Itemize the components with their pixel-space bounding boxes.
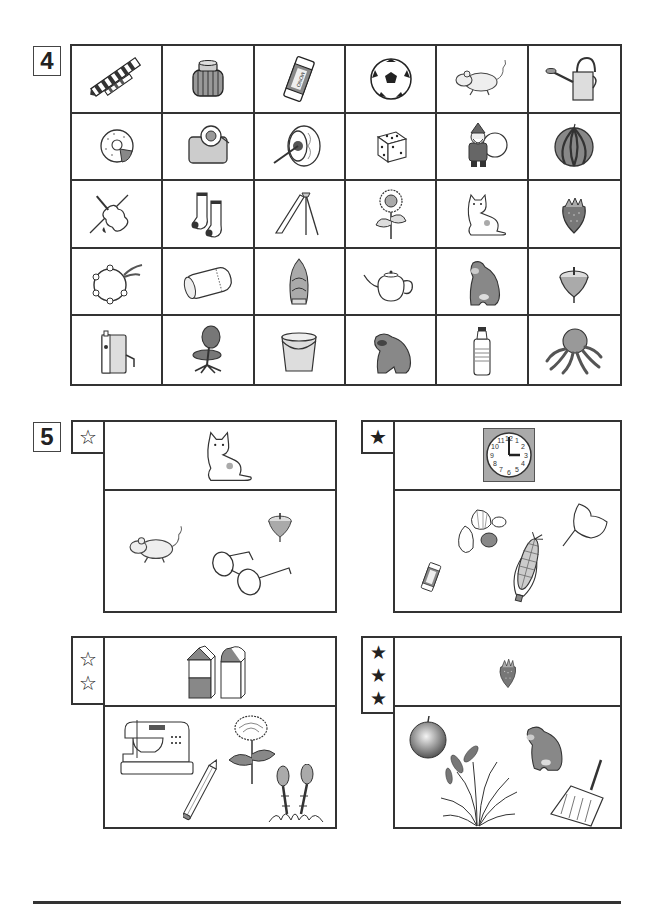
svg-text:2: 2: [521, 443, 525, 450]
clock-prompt-icon[interactable]: 12123 4567 891011: [483, 428, 535, 482]
mouse-choice-icon[interactable]: [119, 518, 195, 574]
grid-cell-socks[interactable]: [163, 181, 254, 249]
bamboo-shoot-icon: [268, 255, 330, 309]
grid-cell-taiko-drum[interactable]: [255, 114, 346, 182]
cat-prompt-icon[interactable]: [185, 426, 261, 486]
pencil-choice-icon[interactable]: [183, 756, 217, 826]
grid-cell-water-bottle[interactable]: [437, 316, 528, 384]
grid-cell-gorilla[interactable]: [437, 249, 528, 317]
grid-cell-pillow[interactable]: [163, 249, 254, 317]
building-blocks-prompt-icon[interactable]: [185, 642, 251, 702]
matching-panel-3: [103, 636, 337, 829]
dice-icon: [360, 119, 422, 173]
eraser-choice-icon[interactable]: [411, 546, 451, 608]
pillow-icon: [177, 255, 239, 309]
grid-cell-bucket[interactable]: [255, 316, 346, 384]
horsetail-choice-icon[interactable]: [267, 764, 325, 826]
ink-bottle-icon: [177, 52, 239, 106]
grid-cell-donut[interactable]: [72, 114, 163, 182]
grid-cell-tape-dispenser[interactable]: [163, 114, 254, 182]
bucket-icon: [268, 323, 330, 377]
ginkgo-leaf-choice-icon[interactable]: [561, 500, 609, 552]
glasses-choice-icon[interactable]: [209, 548, 295, 604]
teapot-icon: [360, 255, 422, 309]
sunflower-icon: [360, 187, 422, 241]
grid-cell-cat[interactable]: [437, 181, 528, 249]
prompt-area: [395, 638, 620, 707]
grid-cell-spinning-top[interactable]: [529, 249, 620, 317]
grid-cell-eraser[interactable]: MONO: [255, 46, 346, 114]
matching-panel-4: [393, 636, 622, 829]
grid-cell-sunflower[interactable]: [346, 181, 437, 249]
watering-can-icon: [543, 52, 605, 106]
svg-text:3: 3: [524, 452, 528, 459]
strawberry-prompt-icon[interactable]: [487, 650, 529, 694]
svg-text:6: 6: [507, 469, 511, 476]
dustpan-choice-icon[interactable]: [547, 756, 613, 828]
slide-icon: [268, 187, 330, 241]
svg-text:11: 11: [497, 437, 504, 444]
prompt-area: [105, 638, 335, 707]
grid-cell-watermelon[interactable]: [529, 114, 620, 182]
socks-icon: [177, 187, 239, 241]
grid-cell-raccoon-dog[interactable]: [346, 316, 437, 384]
matching-panel-2: 12123 4567 891011: [393, 420, 622, 613]
footer-divider: [33, 901, 621, 904]
grid-cell-santa-claus[interactable]: [437, 114, 528, 182]
eraser-icon: MONO: [268, 52, 330, 106]
matching-panel-1: [103, 420, 337, 613]
grid-cell-strawberry[interactable]: [529, 181, 620, 249]
cat-icon: [451, 187, 513, 241]
svg-text:9: 9: [490, 452, 494, 459]
difficulty-stars-panel-4: ★ ★ ★: [361, 636, 395, 714]
spinning-top-choice-icon[interactable]: [255, 502, 305, 548]
mouse-icon: [451, 52, 513, 106]
grid-cell-office-chair[interactable]: [163, 316, 254, 384]
prompt-area: 12123 4567 891011: [395, 422, 620, 491]
santa-claus-icon: [451, 119, 513, 173]
star-filled-icon: ★: [370, 666, 387, 685]
soccer-ball-icon: [360, 52, 422, 106]
raccoon-dog-icon: [360, 323, 422, 377]
svg-text:8: 8: [493, 460, 497, 467]
water-bottle-icon: [451, 323, 513, 377]
star-outline-icon: ☆: [79, 649, 97, 669]
svg-text:4: 4: [521, 460, 525, 467]
corn-choice-icon[interactable]: [507, 530, 547, 606]
spinning-top-icon: [543, 255, 605, 309]
rice-plant-choice-icon[interactable]: [437, 742, 519, 828]
grid-cell-pencil-sharpener[interactable]: [72, 316, 163, 384]
grid-cell-necktie[interactable]: [72, 46, 163, 114]
grid-cell-slide[interactable]: [255, 181, 346, 249]
question-number-4: 4: [33, 46, 61, 76]
star-outline-icon: ☆: [79, 673, 97, 693]
question-number-5: 5: [33, 422, 61, 452]
grid-cell-mouse[interactable]: [437, 46, 528, 114]
tape-dispenser-icon: [177, 119, 239, 173]
tambourine-icon: [86, 255, 148, 309]
grid-cell-teapot[interactable]: [346, 249, 437, 317]
star-filled-icon: ★: [370, 643, 387, 662]
grid-cell-octopus[interactable]: [529, 316, 620, 384]
star-outline-icon: ☆: [79, 427, 97, 447]
donut-icon: [86, 119, 148, 173]
difficulty-stars-panel-2: ★: [361, 420, 395, 454]
picture-grid: MONO: [70, 44, 622, 386]
grid-cell-soccer-ball[interactable]: [346, 46, 437, 114]
grid-cell-dice[interactable]: [346, 114, 437, 182]
octopus-icon: [543, 323, 605, 377]
grid-cell-watering-can[interactable]: [529, 46, 620, 114]
grid-cell-violin[interactable]: [72, 181, 163, 249]
pencil-sharpener-icon: [86, 323, 148, 377]
prompt-area: [105, 422, 335, 491]
strawberry-icon: [543, 187, 605, 241]
star-filled-icon: ★: [369, 427, 387, 447]
svg-text:10: 10: [491, 443, 499, 450]
grid-cell-bamboo-shoot[interactable]: [255, 249, 346, 317]
violin-icon: [86, 187, 148, 241]
grid-cell-tambourine[interactable]: [72, 249, 163, 317]
svg-text:5: 5: [515, 466, 519, 473]
watermelon-icon: [543, 119, 605, 173]
grid-cell-ink-bottle[interactable]: [163, 46, 254, 114]
difficulty-stars-panel-3: ☆ ☆: [71, 636, 105, 705]
